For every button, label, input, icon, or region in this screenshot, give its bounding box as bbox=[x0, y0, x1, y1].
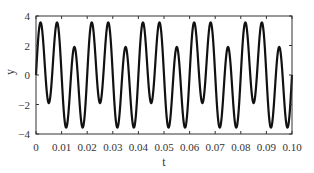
y-tick-label: 0 bbox=[25, 69, 31, 81]
x-tick-label: 0.10 bbox=[282, 141, 302, 153]
x-axis-label: t bbox=[162, 155, 166, 169]
x-tick-label: 0.04 bbox=[129, 141, 149, 153]
y-axis-label: y bbox=[3, 69, 17, 75]
x-tick-label: 0.06 bbox=[180, 141, 200, 153]
x-tick-label: 0 bbox=[33, 141, 39, 153]
y-tick-label: 2 bbox=[25, 40, 31, 52]
x-tick-label: 0.03 bbox=[103, 141, 123, 153]
x-axis-ticks: 00.010.020.030.040.050.060.070.080.090.1… bbox=[33, 16, 302, 153]
y-tick-label: −2 bbox=[18, 99, 30, 111]
x-tick-label: 0.05 bbox=[154, 141, 174, 153]
x-tick-label: 0.01 bbox=[52, 141, 71, 153]
x-tick-label: 0.08 bbox=[231, 141, 251, 153]
x-tick-label: 0.07 bbox=[206, 141, 226, 153]
y-tick-label: −4 bbox=[18, 128, 30, 140]
x-tick-label: 0.09 bbox=[257, 141, 277, 153]
line-chart: 00.010.020.030.040.050.060.070.080.090.1… bbox=[0, 0, 314, 173]
y-tick-label: 4 bbox=[25, 10, 31, 22]
x-tick-label: 0.02 bbox=[78, 141, 97, 153]
series-line-y bbox=[36, 22, 292, 127]
